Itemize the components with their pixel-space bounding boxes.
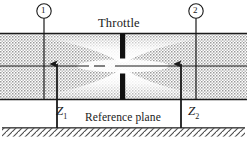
station-1-number: 1	[41, 6, 46, 15]
z1-subscript: 1	[63, 112, 67, 121]
reference-plane-label: Reference plane	[85, 112, 161, 124]
throttle-pipe-diagram: Throttle Reference plane Z1 Z2 1 2	[0, 0, 247, 145]
z2-subscript: 2	[195, 112, 199, 121]
throttle-plate-lower	[120, 74, 125, 100]
z2-label: Z2	[188, 104, 199, 121]
throttle-label: Throttle	[98, 17, 140, 30]
ground-hatching	[2, 129, 245, 137]
reference-ground	[2, 128, 245, 137]
throttle-plate-upper	[120, 34, 125, 59]
station-2-number: 2	[193, 6, 198, 15]
z1-label: Z1	[56, 104, 67, 121]
